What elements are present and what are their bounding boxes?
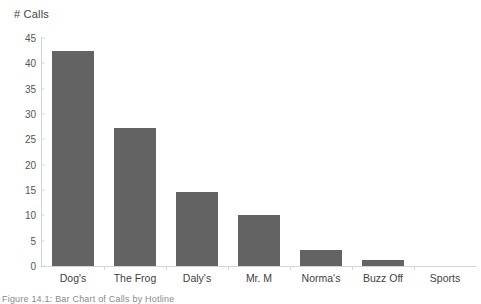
- y-axis-tick-label: 30: [25, 109, 36, 120]
- bar[interactable]: [52, 51, 94, 266]
- bar-slot: [352, 38, 414, 266]
- x-axis-tick-label: Dog's: [60, 272, 87, 284]
- y-axis-tick-label: 0: [30, 261, 36, 272]
- bar-slot: [104, 38, 166, 266]
- bar-slot: [228, 38, 290, 266]
- bar-slot: [414, 38, 476, 266]
- bar-slot: [166, 38, 228, 266]
- bar-slot: [290, 38, 352, 266]
- bar[interactable]: [362, 260, 404, 266]
- x-axis-tick-mark: [352, 266, 353, 270]
- x-axis-tick-label: Daly's: [183, 272, 211, 284]
- y-axis-tick-mark: [42, 164, 45, 165]
- y-axis-tick-label: 5: [30, 235, 36, 246]
- y-axis-tick-mark: [42, 63, 45, 64]
- y-axis-tick-mark: [42, 190, 45, 191]
- y-axis-tick-labels: 051015202530354045: [0, 0, 36, 304]
- x-axis-line: [41, 266, 476, 267]
- bar[interactable]: [176, 192, 218, 266]
- x-axis-tick-mark: [290, 266, 291, 270]
- y-axis-tick-label: 20: [25, 159, 36, 170]
- bar-series: [42, 38, 476, 266]
- x-axis-tick-mark: [414, 266, 415, 270]
- x-axis-tick-label: Sports: [430, 272, 460, 284]
- y-axis-tick-mark: [42, 215, 45, 216]
- x-axis-category-labels: Dog'sThe FrogDaly'sMr. MNorma'sBuzz OffS…: [42, 272, 476, 288]
- y-axis-tick-label: 40: [25, 58, 36, 69]
- y-axis-tick-label: 35: [25, 83, 36, 94]
- bar-chart: # Calls 051015202530354045 Dog'sThe Frog…: [0, 0, 481, 304]
- x-axis-tick-label: The Frog: [114, 272, 157, 284]
- y-axis-tick-mark: [42, 240, 45, 241]
- y-axis-tick-mark: [42, 266, 45, 267]
- bar[interactable]: [114, 128, 156, 266]
- y-axis-tick-mark: [42, 88, 45, 89]
- figure-caption: Figure 14.1: Bar Chart of Calls by Hotli…: [2, 294, 174, 304]
- x-axis-tick-mark: [166, 266, 167, 270]
- y-axis-tick-label: 15: [25, 185, 36, 196]
- y-axis-tick-mark: [42, 114, 45, 115]
- y-axis-tick-label: 45: [25, 33, 36, 44]
- x-axis-tick-label: Norma's: [302, 272, 341, 284]
- x-axis-tick-label: Mr. M: [246, 272, 272, 284]
- bar[interactable]: [300, 250, 342, 266]
- y-axis-tick-mark: [42, 139, 45, 140]
- x-axis-tick-mark: [104, 266, 105, 270]
- y-axis-tick-label: 10: [25, 210, 36, 221]
- y-axis-tick-label: 25: [25, 134, 36, 145]
- bar[interactable]: [238, 215, 280, 266]
- x-axis-tick-mark: [228, 266, 229, 270]
- y-axis-tick-mark: [42, 38, 45, 39]
- bar-slot: [42, 38, 104, 266]
- x-axis-tick-label: Buzz Off: [363, 272, 403, 284]
